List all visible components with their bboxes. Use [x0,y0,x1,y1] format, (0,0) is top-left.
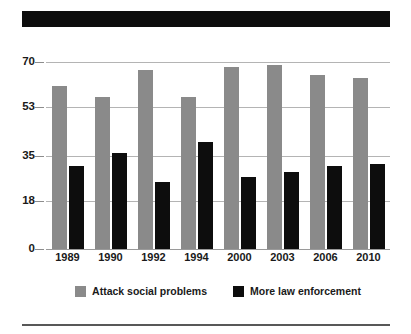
x-axis-label-2006: 2006 [304,252,347,263]
bar-group-2006 [304,62,347,249]
title-banner [22,11,390,27]
bar-1992-series-2[interactable] [155,182,170,249]
bar-group-2010 [347,62,390,249]
bar-2006-series-2[interactable] [327,166,342,249]
bar-group-2003 [261,62,304,249]
x-axis-label-1992: 1992 [132,252,175,263]
bar-1990-series-1[interactable] [95,97,110,249]
y-tick-0 [35,249,44,250]
bar-2010-series-2[interactable] [370,164,385,249]
y-tick-18 [35,201,44,202]
legend-label: Attack social problems [92,286,207,297]
y-tick-35 [35,156,44,157]
x-axis-label-1994: 1994 [175,252,218,263]
bar-2006-series-1[interactable] [310,75,325,249]
bar-1992-series-1[interactable] [138,70,153,249]
bar-2000-series-1[interactable] [224,67,239,249]
legend-item-1[interactable]: Attack social problems [75,286,207,297]
bar-2003-series-2[interactable] [284,172,299,249]
y-axis-labels: 018355370 [8,62,35,249]
x-axis-label-2000: 2000 [218,252,261,263]
bar-2000-series-2[interactable] [241,177,256,249]
y-tick-70 [35,62,44,63]
gridline-0 [46,249,390,250]
y-axis-label: 0 [9,243,35,255]
legend-label: More law enforcement [250,286,361,297]
y-axis-label: 18 [9,195,35,207]
y-tick-53 [35,107,44,108]
chart-legend: Attack social problemsMore law enforceme… [46,283,390,299]
bar-group-1990 [89,62,132,249]
x-axis-label-1990: 1990 [89,252,132,263]
bottom-divider [22,324,390,326]
legend-swatch-icon [233,286,244,297]
bar-group-2000 [218,62,261,249]
bar-1994-series-1[interactable] [181,97,196,249]
bar-group-1994 [175,62,218,249]
y-axis-label: 35 [9,150,35,162]
y-axis-label: 53 [9,101,35,113]
bar-2003-series-1[interactable] [267,65,282,249]
bar-group-1992 [132,62,175,249]
bar-1989-series-1[interactable] [52,86,67,249]
legend-item-2[interactable]: More law enforcement [233,286,361,297]
bar-2010-series-1[interactable] [353,78,368,249]
y-axis-label: 70 [9,56,35,68]
bar-1989-series-2[interactable] [69,166,84,249]
plot-area [46,62,390,249]
x-axis-label-1989: 1989 [46,252,89,263]
bar-1994-series-2[interactable] [198,142,213,249]
x-axis-label-2003: 2003 [261,252,304,263]
legend-swatch-icon [75,286,86,297]
x-axis-label-2010: 2010 [347,252,390,263]
chart-figure: 018355370 198919901992199420002003200620… [0,0,411,334]
x-axis-labels: 19891990199219942000200320062010 [46,252,390,268]
bar-group-1989 [46,62,89,249]
bar-1990-series-2[interactable] [112,153,127,249]
